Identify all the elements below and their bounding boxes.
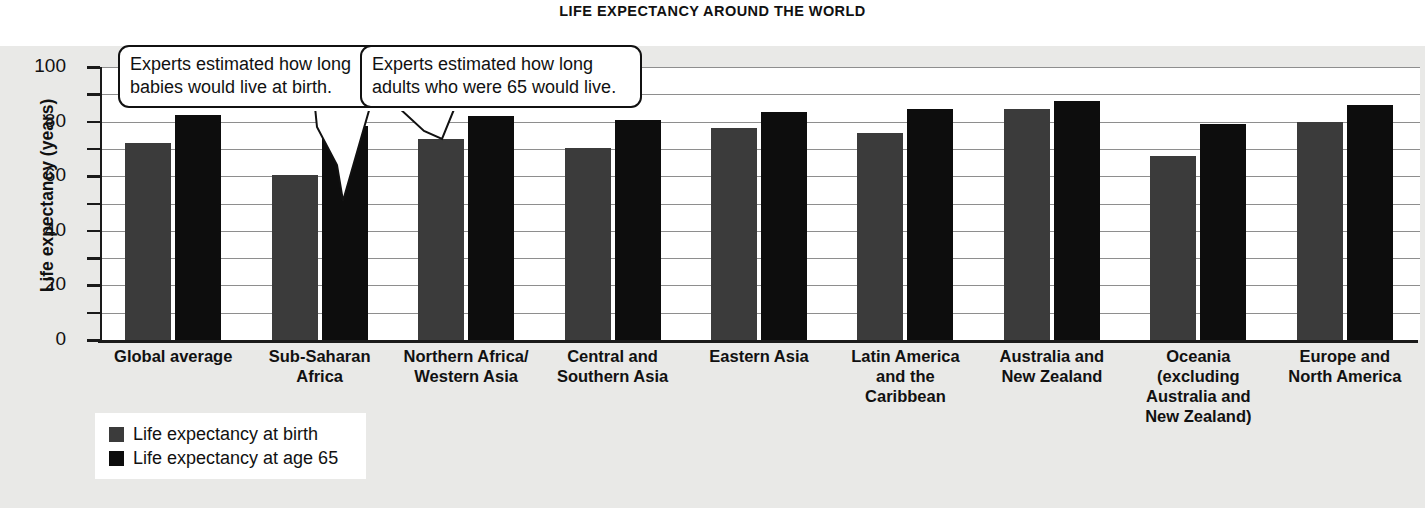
y-tick-major bbox=[87, 284, 100, 287]
x-axis-label-line: Central and bbox=[533, 346, 691, 366]
x-axis-label-line: (excluding bbox=[1119, 366, 1277, 386]
legend: Life expectancy at birth Life expectancy… bbox=[95, 413, 366, 479]
bar-group bbox=[832, 67, 978, 340]
y-tick-major bbox=[87, 121, 100, 124]
bar-group bbox=[1272, 67, 1418, 340]
x-axis-label-line: Sub-Saharan bbox=[240, 346, 398, 366]
x-axis-label-line: Caribbean bbox=[826, 386, 984, 406]
x-axis-label-line: Global average bbox=[94, 346, 252, 366]
bar-life-expectancy-at-birth bbox=[125, 143, 171, 340]
y-tick-minor bbox=[87, 203, 100, 206]
bar-life-expectancy-at-age-65 bbox=[322, 126, 368, 340]
x-axis-label-line: Western Asia bbox=[387, 366, 545, 386]
callout-age65-line-1: Experts estimated how long bbox=[372, 53, 630, 76]
y-tick-label: 20 bbox=[6, 273, 66, 295]
y-tick-major bbox=[87, 175, 100, 178]
y-tick-label: 0 bbox=[6, 328, 66, 350]
y-tick-minor bbox=[87, 148, 100, 151]
callout-age65: Experts estimated how long adults who we… bbox=[360, 45, 642, 108]
legend-swatch-birth-icon bbox=[109, 427, 124, 442]
bar-life-expectancy-at-birth bbox=[711, 128, 757, 340]
bar-life-expectancy-at-age-65 bbox=[761, 112, 807, 340]
x-axis-label-line: Northern Africa/ bbox=[387, 346, 545, 366]
x-axis-label: Global average bbox=[94, 346, 252, 366]
callout-birth-line-1: Experts estimated how long bbox=[130, 53, 370, 76]
bar-life-expectancy-at-age-65 bbox=[468, 116, 514, 340]
callout-birth-line-2: babies would live at birth. bbox=[130, 76, 370, 99]
bar-group bbox=[1125, 67, 1271, 340]
y-tick-minor bbox=[87, 312, 100, 315]
y-tick-major bbox=[87, 66, 100, 69]
x-axis-label-line: North America bbox=[1266, 366, 1424, 386]
chart-figure: LIFE EXPECTANCY AROUND THE WORLD Life ex… bbox=[0, 0, 1425, 508]
y-tick-label: 80 bbox=[6, 110, 66, 132]
x-axis-label: Eastern Asia bbox=[680, 346, 838, 366]
legend-item-age65: Life expectancy at age 65 bbox=[109, 446, 338, 470]
callout-birth: Experts estimated how long babies would … bbox=[118, 45, 382, 108]
y-tick-label: 100 bbox=[6, 55, 66, 77]
bar-life-expectancy-at-birth bbox=[1150, 156, 1196, 340]
x-axis-label-line: New Zealand bbox=[973, 366, 1131, 386]
bar-life-expectancy-at-birth bbox=[1297, 122, 1343, 340]
bar-life-expectancy-at-birth bbox=[857, 133, 903, 340]
legend-label-age65: Life expectancy at age 65 bbox=[133, 448, 338, 469]
x-axis-label-line: Europe and bbox=[1266, 346, 1424, 366]
x-axis-label-line: Australia and bbox=[1119, 386, 1277, 406]
x-axis-label-line: Latin America bbox=[826, 346, 984, 366]
bar-life-expectancy-at-age-65 bbox=[175, 115, 221, 340]
x-axis-label-line: Australia and bbox=[973, 346, 1131, 366]
legend-swatch-age65-icon bbox=[109, 451, 124, 466]
bar-life-expectancy-at-age-65 bbox=[1347, 105, 1393, 340]
bar-life-expectancy-at-age-65 bbox=[907, 109, 953, 340]
legend-label-birth: Life expectancy at birth bbox=[133, 424, 318, 445]
bar-life-expectancy-at-age-65 bbox=[1054, 101, 1100, 340]
x-axis-label: Oceania(excludingAustralia andNew Zealan… bbox=[1119, 346, 1277, 426]
y-tick-minor bbox=[87, 93, 100, 96]
bar-group bbox=[686, 67, 832, 340]
x-axis-label: Central andSouthern Asia bbox=[533, 346, 691, 386]
y-tick-label: 60 bbox=[6, 164, 66, 186]
x-axis-label-line: and the bbox=[826, 366, 984, 386]
callout-age65-line-2: adults who were 65 would live. bbox=[372, 76, 630, 99]
x-axis-label: Northern Africa/Western Asia bbox=[387, 346, 545, 386]
bar-group bbox=[979, 67, 1125, 340]
x-axis-label-line: Africa bbox=[240, 366, 398, 386]
y-tick-minor bbox=[87, 257, 100, 260]
x-axis-label-line: Oceania bbox=[1119, 346, 1277, 366]
x-axis-label-line: Eastern Asia bbox=[680, 346, 838, 366]
bar-life-expectancy-at-age-65 bbox=[615, 120, 661, 340]
bar-life-expectancy-at-birth bbox=[565, 148, 611, 340]
x-axis-line bbox=[98, 340, 1418, 343]
x-axis-label-line: New Zealand) bbox=[1119, 406, 1277, 426]
chart-title: LIFE EXPECTANCY AROUND THE WORLD bbox=[0, 3, 1425, 19]
x-axis-label: Europe andNorth America bbox=[1266, 346, 1424, 386]
x-axis-label: Latin Americaand theCaribbean bbox=[826, 346, 984, 406]
bar-life-expectancy-at-birth bbox=[272, 175, 318, 340]
bar-life-expectancy-at-birth bbox=[1004, 109, 1050, 340]
bar-life-expectancy-at-birth bbox=[418, 139, 464, 340]
x-axis-label: Sub-SaharanAfrica bbox=[240, 346, 398, 386]
x-axis-label: Australia andNew Zealand bbox=[973, 346, 1131, 386]
y-tick-major bbox=[87, 230, 100, 233]
y-tick-label: 40 bbox=[6, 219, 66, 241]
legend-item-birth: Life expectancy at birth bbox=[109, 422, 338, 446]
bar-life-expectancy-at-age-65 bbox=[1200, 124, 1246, 340]
x-axis-label-line: Southern Asia bbox=[533, 366, 691, 386]
